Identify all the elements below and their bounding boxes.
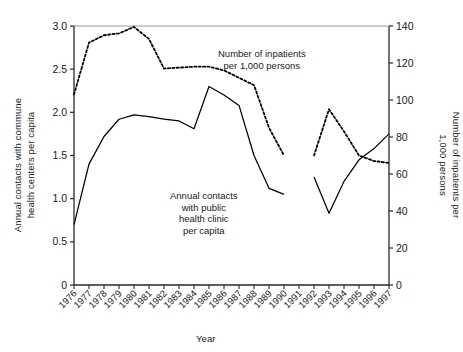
y-axis-left-tick-label: 0.5: [52, 235, 67, 247]
y-axis-right-tick-label: 0: [396, 279, 402, 291]
y-axis-right-title-line2: 1,000 persons: [438, 134, 449, 196]
annotation-inpatients: Number of inpatientsper 1,000 persons: [218, 48, 306, 71]
ann-clinic-line3: health clinic: [179, 213, 229, 224]
y-axis-right-tick-label: 40: [396, 205, 408, 217]
y-axis-right-tick-label: 60: [396, 168, 408, 180]
ann-clinic-line1: Annual contacts: [170, 190, 238, 201]
y-axis-right-tick-label: 140: [396, 20, 414, 32]
annotation-clinic: Annual contactswith publichealth clinicp…: [170, 190, 238, 236]
y-axis-right-title: Number of inpatients per 1,000 persons: [437, 55, 463, 275]
ann-clinic-line4: per capita: [183, 225, 225, 236]
x-axis-tick-labels: 1976197719781979198019811982198319841985…: [56, 288, 394, 311]
y-axis-right-tick-labels: 020406080100120140: [396, 20, 414, 291]
ann-clinic-line2: with public: [182, 202, 226, 213]
ann-inpatients-line2: per 1,000 persons: [224, 60, 301, 71]
y-axis-right-tick-label: 20: [396, 242, 408, 254]
y-axis-right-tick-label: 100: [396, 94, 414, 106]
y-axis-left-tick-label: 2.5: [52, 63, 67, 75]
y-axis-right-tick-label: 80: [396, 131, 408, 143]
y-axis-right-title-line1: Number of inpatients per: [451, 112, 462, 218]
ann-inpatients-line1: Number of inpatients: [218, 48, 306, 59]
y-axis-left-tick-label: 1.5: [52, 149, 67, 161]
series-line-0-b: [314, 134, 389, 213]
y-axis-left-tick-labels: 00.51.01.52.02.53.0: [52, 20, 67, 291]
series-line-1-a: [74, 27, 284, 156]
y-axis-left-tick-label: 1.0: [52, 192, 67, 204]
x-axis-tick-label: 1997: [371, 288, 394, 311]
y-axis-right-tick-label: 120: [396, 57, 414, 69]
y-axis-left-tick-label: 0: [61, 279, 67, 291]
x-axis-title: Year: [196, 333, 216, 344]
y-axis-left-tick-label: 2.0: [52, 106, 67, 118]
y-axis-left-title: Annual contacts with commune health cent…: [11, 55, 37, 275]
y-axis-left-title-line1: Annual contacts with commune: [12, 98, 23, 232]
y-axis-left-tick-label: 3.0: [52, 20, 67, 32]
series-line-1-b: [314, 109, 389, 163]
y-axis-left-title-line2: health centers per capita: [25, 112, 36, 219]
